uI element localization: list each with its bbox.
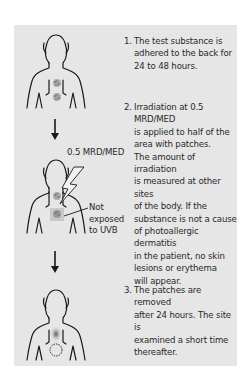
down-arrow-icon (50, 119, 60, 141)
step-2: 2. Irradiation at 0.5 MRD/MED is applied… (124, 101, 238, 287)
step-text: Irradiation at 0.5 MRD/MED is applied to… (124, 101, 238, 287)
dose-label: 0.5 MRD/MED (67, 147, 124, 159)
torso-figure-3 (22, 288, 94, 368)
not-exposed-label: Not exposed to UVB (89, 202, 124, 237)
step-number: 3. (124, 284, 132, 296)
step-number: 2. (124, 101, 132, 113)
patch-site-icon (50, 344, 62, 356)
step-1: 1. The test substance is adhered to the … (124, 35, 238, 72)
down-arrow-icon (50, 251, 60, 274)
step-3: 3. The patches are removed after 24 hour… (124, 284, 238, 358)
step-number: 1. (124, 35, 132, 47)
torso-figure-1 (22, 33, 94, 113)
patch-icon (53, 79, 61, 101)
lightning-bolt-icon (58, 166, 90, 206)
step-text: The test substance is adhered to the bac… (124, 35, 238, 72)
step-text: The patches are removed after 24 hours. … (124, 284, 238, 358)
